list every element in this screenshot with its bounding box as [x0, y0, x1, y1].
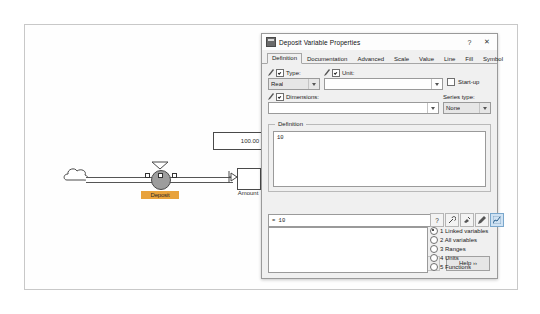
type-label: Type: — [286, 70, 301, 76]
dialog-title: Deposit Variable Properties — [279, 39, 461, 46]
radio-label: 3 Ranges — [440, 246, 466, 252]
flow-valve-deposit[interactable]: Deposit — [143, 161, 177, 207]
readout-value: 100.00 — [241, 138, 259, 144]
radio-indicator[interactable] — [430, 245, 438, 253]
definition-group: Definition 10 — [268, 124, 491, 192]
dialog-titlebar[interactable]: Deposit Variable Properties ? ✕ — [262, 34, 497, 50]
unit-checkbox[interactable] — [332, 69, 340, 77]
screen: Deposit Amount 100.00 Deposit Variable P… — [0, 0, 540, 314]
radio-all-variables[interactable]: 2 All variables — [430, 236, 492, 244]
variable-browser-list[interactable] — [268, 227, 428, 273]
radio-functions[interactable]: 5 Functions — [430, 263, 492, 271]
pencil-icon[interactable] — [475, 213, 489, 227]
radio-units[interactable]: 4 Units — [430, 254, 492, 262]
type-checkbox[interactable] — [276, 69, 284, 77]
dimensions-checkbox[interactable] — [276, 93, 284, 101]
close-icon[interactable]: ✕ — [478, 35, 495, 49]
startup-group: Start-up — [447, 68, 491, 86]
wrench-icon[interactable] — [445, 213, 459, 227]
browser-filter-radio-group[interactable]: 1 Linked variables 2 All variables 3 Ran… — [430, 227, 492, 271]
radio-indicator[interactable] — [430, 254, 438, 262]
stock-box-amount[interactable] — [237, 168, 261, 190]
tab-value[interactable]: Value — [414, 54, 439, 64]
unit-select[interactable] — [324, 78, 443, 90]
flow-label: Deposit — [141, 191, 179, 199]
valve-triangle-icon — [151, 161, 169, 170]
tab-fill[interactable]: Fill — [460, 54, 478, 64]
pencil-icon — [268, 69, 274, 76]
graph-icon[interactable] — [490, 213, 504, 227]
radio-ranges[interactable]: 3 Ranges — [430, 245, 492, 253]
radio-indicator[interactable] — [430, 227, 438, 235]
type-select[interactable]: Real — [268, 78, 320, 90]
definition-text: 10 — [277, 134, 284, 141]
tab-definition[interactable]: Definition — [267, 53, 302, 64]
svg-text:?: ? — [435, 217, 439, 224]
series-type-value: None — [446, 105, 460, 111]
tab-scale[interactable]: Scale — [389, 54, 414, 64]
tab-documentation[interactable]: Documentation — [302, 54, 352, 64]
startup-label: Start-up — [458, 79, 479, 85]
radio-label: 1 Linked variables — [440, 228, 488, 234]
chevron-down-icon[interactable] — [479, 103, 490, 113]
radio-indicator[interactable] — [430, 263, 438, 271]
tab-symbol[interactable]: Symbol — [478, 54, 508, 64]
selection-handles[interactable] — [145, 174, 175, 176]
tab-bar[interactable]: Definition Documentation Advanced Scale … — [262, 50, 497, 64]
definition-group-label: Definition — [275, 121, 306, 127]
radio-label: 5 Functions — [440, 264, 471, 270]
question-icon[interactable]: ? — [430, 213, 444, 227]
help-titlebar-button[interactable]: ? — [461, 35, 478, 49]
stock-flow-diagram: Deposit Amount 100.00 — [25, 25, 275, 289]
dimensions-label: Dimensions: — [286, 94, 319, 100]
paint-icon[interactable] — [460, 213, 474, 227]
expression-status-value: = 10 — [272, 217, 285, 224]
app-icon — [266, 37, 276, 47]
radio-label: 4 Units — [440, 255, 459, 261]
series-type-label: Series type: — [443, 94, 475, 100]
pencil-icon — [268, 93, 274, 100]
chevron-down-icon[interactable] — [427, 103, 438, 113]
unit-label: Unit: — [342, 70, 354, 76]
tab-line[interactable]: Line — [439, 54, 460, 64]
dimensions-field-group: Dimensions: — [268, 92, 439, 114]
radio-indicator[interactable] — [430, 236, 438, 244]
type-value: Real — [271, 81, 283, 87]
variable-properties-dialog[interactable]: Deposit Variable Properties ? ✕ Definiti… — [261, 33, 498, 279]
definition-toolbar[interactable]: ? — [430, 213, 504, 227]
startup-checkbox[interactable] — [447, 78, 455, 86]
series-type-group: Series type: None — [443, 92, 491, 114]
unit-field-group: Unit: — [324, 68, 443, 90]
dialog-body: Type: Real Unit: — [262, 64, 497, 252]
tab-advanced[interactable]: Advanced — [352, 54, 389, 64]
radio-linked-variables[interactable]: 1 Linked variables — [430, 227, 492, 235]
series-type-select[interactable]: None — [443, 102, 491, 114]
chevron-down-icon[interactable] — [431, 79, 442, 89]
dimensions-select[interactable] — [268, 102, 439, 114]
definition-editor[interactable]: 10 — [273, 131, 486, 187]
radio-label: 2 All variables — [440, 237, 477, 243]
chevron-down-icon[interactable] — [308, 79, 319, 89]
pencil-icon — [324, 69, 330, 76]
expression-status-field[interactable]: = 10 — [268, 214, 434, 227]
type-field-group: Type: Real — [268, 68, 320, 90]
